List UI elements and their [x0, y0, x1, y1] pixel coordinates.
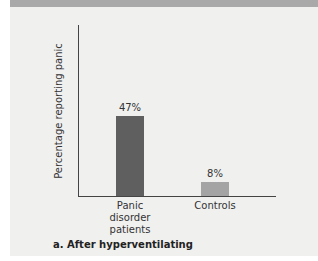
figure-caption: a. After hyperventilating — [53, 239, 193, 250]
category-label-controls: Controls — [180, 200, 250, 212]
x-axis — [78, 196, 276, 197]
category-label-line: Panic disorder — [95, 200, 165, 224]
top-band — [10, 0, 318, 7]
y-axis-label: Percentage reporting panic — [53, 43, 64, 179]
category-label-panic-disorder: Panic disorder patients — [95, 200, 165, 236]
category-label-line: patients — [95, 224, 165, 236]
value-label-panic-disorder: 47% — [110, 102, 150, 113]
y-axis — [78, 25, 79, 197]
bar-controls — [201, 182, 229, 196]
value-label-controls: 8% — [195, 168, 235, 179]
bar-panic-disorder — [116, 116, 144, 196]
